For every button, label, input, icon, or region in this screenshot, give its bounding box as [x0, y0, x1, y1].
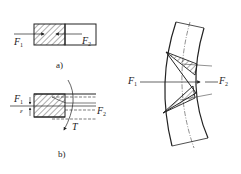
panel-b-force-f1: F1	[14, 94, 23, 105]
panel-b-caption: b)	[58, 150, 66, 159]
panel-b-torque-symbol: T	[72, 122, 78, 132]
panel-c-force-f2: F2	[219, 76, 228, 87]
panel-a-caption: a)	[56, 61, 63, 70]
panel-b-force-f2: F2	[97, 106, 106, 117]
panel-b-offset-symbol: ε	[20, 108, 23, 115]
panel-a-force-f1: F1	[14, 37, 23, 48]
diagram-canvas: F1 F2 a) F1 ε F2 T b) F1 F2	[0, 0, 241, 174]
diagram-graphics	[0, 0, 241, 174]
panel-a-force-f2: F2	[82, 36, 91, 47]
panel-c-force-f1: F1	[128, 76, 137, 87]
panel-b-body	[10, 80, 96, 130]
panel-c-ring	[140, 22, 218, 148]
